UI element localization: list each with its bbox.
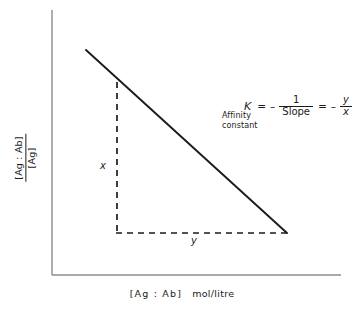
plot-canvas [0,0,364,316]
equation-fraction-one-over-slope: 1 Slope [279,95,313,117]
equation-equals-second: = [318,100,327,112]
equation-equals-first: = [257,100,266,112]
x-axis-label-bracket: [Ag : Ab] [130,288,183,299]
equation-fraction-one-denominator: Slope [279,107,313,118]
equation-fraction-two-denominator: x [340,107,352,118]
construction-label-x: x [100,160,106,171]
y-axis-label-fraction: [Ag : Ab] [Ag] [14,134,38,182]
equation-fraction-y-over-x: y x [340,95,352,117]
equation-minus-first: – [270,100,275,112]
equation-caption: Affinity constant [222,111,258,131]
equation-caption-line-1: Affinity [222,111,258,121]
construction-label-y: y [191,235,197,246]
y-axis-label-numerator: [Ag : Ab] [14,134,26,182]
equation-fraction-two-numerator: y [340,95,352,107]
scatchard-plot-figure: [Ag : Ab] [Ag] [Ag : Ab] mol/litre x y K… [0,0,364,316]
x-axis-label: [Ag : Ab] mol/litre [0,288,364,299]
equation-minus-second: – [331,100,336,112]
equation-fraction-one-numerator: 1 [279,95,313,107]
x-axis-label-units: mol/litre [192,288,234,299]
equation-caption-line-2: constant [222,121,258,131]
equation-annotation: K = – 1 Slope = – y x Affinity constant [218,94,360,118]
y-axis-label-denominator: [Ag] [27,134,38,182]
y-axis-label: [Ag : Ab] [Ag] [4,112,50,204]
